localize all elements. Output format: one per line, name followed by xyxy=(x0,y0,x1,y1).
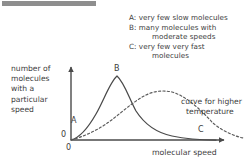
point-label-a: A xyxy=(71,116,76,125)
maxwell-boltzmann-distribution-figure: A: very few slow molecules B: many molec… xyxy=(0,0,249,164)
higher-temperature-annotation-line-1: curve for higher xyxy=(181,97,242,106)
point-label-b: B xyxy=(114,64,120,73)
point-label-c: C xyxy=(198,125,204,134)
x-axis-origin-tick: 0 xyxy=(66,143,71,152)
higher-temperature-annotation-line-2: temperature xyxy=(181,107,249,117)
x-axis-label: molecular speed xyxy=(152,148,217,157)
y-axis-origin-tick: 0 xyxy=(61,130,66,139)
higher-temperature-annotation: curve for higher temperature xyxy=(181,97,249,117)
plot-area xyxy=(0,0,249,164)
